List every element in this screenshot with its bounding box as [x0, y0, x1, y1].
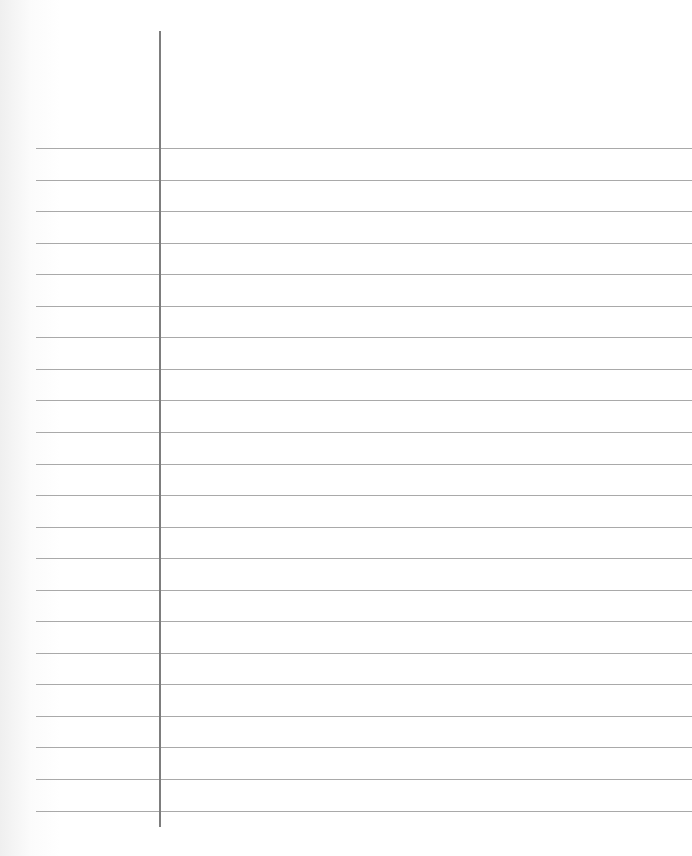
rule-line: [36, 211, 692, 212]
rule-line: [36, 180, 692, 181]
rule-line: [36, 148, 692, 149]
rule-line: [36, 590, 692, 591]
rule-line: [36, 621, 692, 622]
rule-line: [36, 432, 692, 433]
margin-line: [159, 31, 161, 827]
rule-line: [36, 400, 692, 401]
rule-line: [36, 464, 692, 465]
rule-line: [36, 811, 692, 812]
rule-line: [36, 369, 692, 370]
rule-line: [36, 495, 692, 496]
rule-line: [36, 337, 692, 338]
rule-line: [36, 527, 692, 528]
rule-line: [36, 243, 692, 244]
rule-line: [36, 306, 692, 307]
rule-line: [36, 747, 692, 748]
rule-line: [36, 716, 692, 717]
rule-line: [36, 779, 692, 780]
rule-line: [36, 558, 692, 559]
rule-line: [36, 653, 692, 654]
lined-paper: [0, 0, 692, 856]
rule-line: [36, 274, 692, 275]
rule-line: [36, 684, 692, 685]
